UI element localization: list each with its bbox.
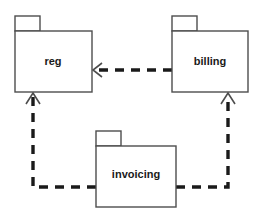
package-billing[interactable]: billing [172, 16, 248, 92]
dependency-invoicing-to-reg[interactable] [26, 93, 96, 187]
package-reg[interactable]: reg [15, 16, 92, 92]
diagram-svg-root: reg billing invoicing [0, 0, 261, 220]
package-label: reg [44, 55, 61, 67]
dependency-line [33, 95, 96, 187]
package-label: invoicing [112, 168, 160, 180]
package-tab [172, 16, 197, 31]
package-tab [96, 131, 121, 146]
uml-package-diagram-canvas: reg billing invoicing [0, 0, 261, 220]
package-invoicing[interactable]: invoicing [96, 131, 176, 207]
dependency-billing-to-reg[interactable] [93, 63, 172, 77]
dependency-invoicing-to-billing[interactable] [176, 93, 235, 187]
dependency-line [176, 95, 228, 187]
package-tab [15, 16, 40, 31]
package-label: billing [194, 55, 226, 67]
